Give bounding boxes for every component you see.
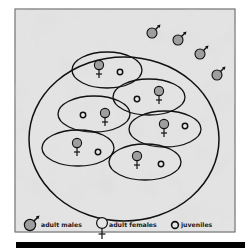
juvenile-symbol-icon — [134, 96, 139, 101]
legend-label: juveniles — [180, 221, 213, 229]
juvenile-symbol-icon — [117, 69, 122, 74]
diagram-frame — [15, 9, 235, 232]
social-structure-diagram: adult males adult females juveniles — [0, 0, 245, 248]
juvenile-symbol-icon — [80, 112, 85, 117]
juvenile-symbol-icon — [95, 149, 100, 154]
juvenile-symbol-icon — [182, 123, 187, 128]
juvenile-symbol-icon — [158, 161, 163, 166]
legend-label: adult females — [109, 221, 157, 228]
juvenile-symbol-icon — [172, 222, 179, 229]
bottom-bar — [16, 242, 245, 248]
legend-item-juveniles: juveniles — [172, 221, 213, 229]
legend-label: adult males — [41, 221, 82, 228]
